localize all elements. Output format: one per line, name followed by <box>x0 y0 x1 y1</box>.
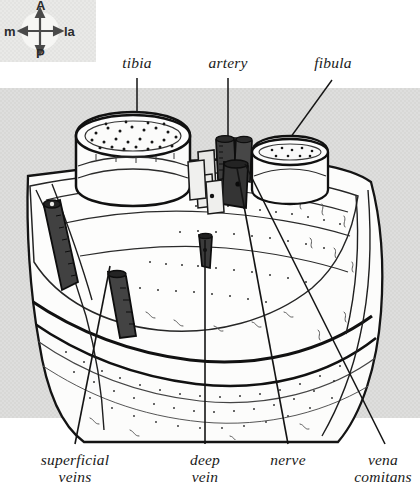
deep-vein-lumen <box>199 233 212 238</box>
accessory-bundle-dot <box>210 194 214 198</box>
label-superficial-veins: superficial veins <box>41 451 110 486</box>
label-superficial-veins-line2: veins <box>41 468 110 485</box>
vena-comitans-2 <box>222 162 248 208</box>
vena-comitans-1-lumen <box>236 136 252 142</box>
superficial-vein-1-bore <box>50 202 54 206</box>
label-vena-comitans-line1: vena <box>354 451 412 468</box>
label-vena-comitans-line2: comitans <box>354 468 412 485</box>
superficial-vein-2-lumen <box>108 270 126 277</box>
label-nerve-line1: nerve <box>270 451 305 468</box>
vena-comitans-2-lumen <box>224 160 248 168</box>
compass-label-posterior: P <box>36 46 45 61</box>
leg-cross-section-figure <box>0 0 420 500</box>
label-superficial-veins-line1: superficial <box>41 451 110 468</box>
label-deep-vein-line2: vein <box>190 468 220 485</box>
tibia-cortex-ring <box>85 121 181 151</box>
label-deep-vein-line1: deep <box>190 451 220 468</box>
fibula-bone <box>252 136 328 204</box>
accessory-bundle-left <box>188 160 206 200</box>
accessory-bundle-lower <box>206 180 224 214</box>
tibia-bone <box>76 112 190 206</box>
label-tibia: tibia <box>122 54 151 71</box>
label-nerve: nerve <box>270 451 305 468</box>
label-artery: artery <box>208 54 247 71</box>
artery-lumen <box>216 136 234 143</box>
compass-label-lateral: la <box>64 24 75 39</box>
label-deep-vein: deep vein <box>190 451 220 486</box>
label-fibula: fibula <box>314 54 351 71</box>
compass-label-anterior: A <box>36 0 45 13</box>
compass-label-medial: m <box>4 24 16 39</box>
label-vena-comitans: vena comitans <box>354 451 412 486</box>
